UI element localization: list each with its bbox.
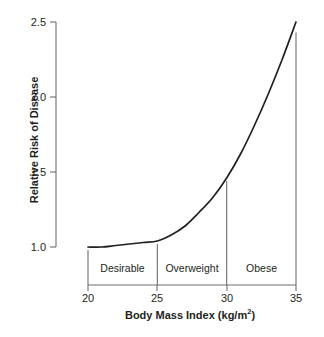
category-separator-lines bbox=[88, 33, 296, 286]
chart-plot-area bbox=[0, 0, 324, 337]
x-tick-label-20: 20 bbox=[73, 292, 103, 304]
relative-risk-curve bbox=[88, 22, 296, 247]
y-tick-label-1-0: 1.0 bbox=[12, 241, 46, 253]
x-axis-ticks bbox=[88, 285, 296, 291]
x-axis-title-close: ) bbox=[251, 309, 255, 321]
x-axis-title-main: Body Mass Index (kg/m bbox=[125, 309, 247, 321]
band-label-overweight: Overweight bbox=[157, 262, 227, 274]
band-label-obese: Obese bbox=[227, 262, 296, 274]
y-axis-ticks bbox=[50, 22, 56, 247]
band-label-desirable: Desirable bbox=[88, 262, 157, 274]
y-tick-label-2-5: 2.5 bbox=[12, 16, 46, 28]
bmi-relative-risk-chart: 2.5 2.0 1.5 1.0 20 25 30 35 Desirable Ov… bbox=[0, 0, 324, 337]
x-tick-label-25: 25 bbox=[142, 292, 172, 304]
x-tick-label-30: 30 bbox=[212, 292, 242, 304]
y-axis-title: Relative Risk of Disease bbox=[28, 50, 40, 230]
x-tick-label-35: 35 bbox=[281, 292, 311, 304]
x-axis-title: Body Mass Index (kg/m2) bbox=[60, 309, 320, 321]
